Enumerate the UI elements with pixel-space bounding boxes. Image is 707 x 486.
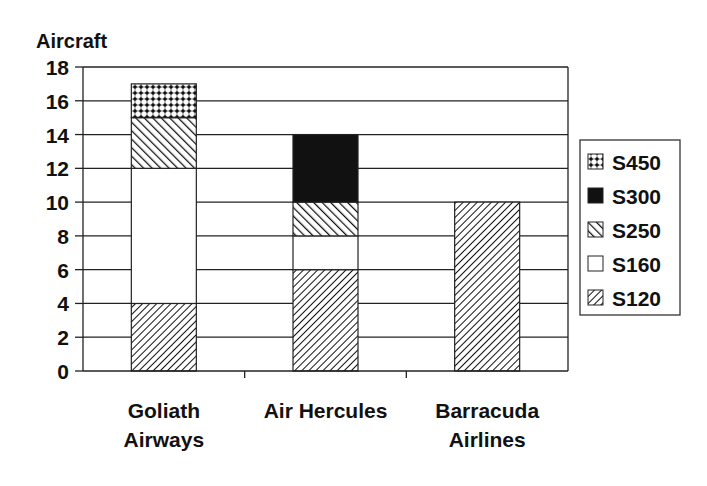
- x-tick-label: Air Hercules: [264, 399, 388, 422]
- x-tick-label: Airways: [124, 428, 205, 451]
- legend-label-s120: S120: [612, 287, 661, 310]
- x-tick-label: Barracuda: [435, 399, 539, 422]
- y-tick-label: 8: [57, 225, 69, 248]
- legend-swatch-s300: [588, 188, 603, 203]
- stacked-bar-chart: Aircraft024681012141618GoliathAirwaysAir…: [0, 0, 707, 486]
- legend-swatch-s250: [588, 222, 603, 237]
- legend-swatch-s120: [588, 290, 603, 305]
- legend: S450S300S250S160S120: [580, 140, 680, 315]
- y-tick-label: 2: [57, 326, 69, 349]
- legend-label-s160: S160: [612, 253, 661, 276]
- bar-segment-s120: [455, 202, 520, 371]
- y-tick-label: 12: [46, 157, 69, 180]
- bar-segment-s300: [293, 135, 358, 203]
- bar-segment-s160: [131, 168, 196, 303]
- y-tick-label: 18: [46, 56, 70, 79]
- bar-segment-s120: [131, 303, 196, 371]
- legend-swatch-s160: [588, 256, 603, 271]
- bar-segment-s120: [293, 270, 358, 371]
- legend-label-s250: S250: [612, 219, 661, 242]
- legend-label-s300: S300: [612, 185, 661, 208]
- legend-swatch-s450: [588, 154, 603, 169]
- y-axis-label: Aircraft: [36, 30, 107, 52]
- x-tick-label: Airlines: [449, 428, 526, 451]
- y-tick-label: 10: [46, 191, 69, 214]
- y-tick-label: 14: [46, 124, 70, 147]
- bar-segment-s250: [293, 202, 358, 236]
- bar-segment-s160: [293, 236, 358, 270]
- legend-label-s450: S450: [612, 151, 661, 174]
- y-tick-label: 0: [57, 360, 69, 383]
- chart: Aircraft024681012141618GoliathAirwaysAir…: [0, 0, 707, 486]
- bar-segment-s250: [131, 118, 196, 169]
- x-tick-label: Goliath: [128, 399, 200, 422]
- bars: [131, 84, 519, 371]
- y-tick-label: 4: [57, 292, 69, 315]
- bar-segment-s450: [131, 84, 196, 118]
- y-tick-label: 16: [46, 90, 69, 113]
- y-tick-label: 6: [57, 259, 69, 282]
